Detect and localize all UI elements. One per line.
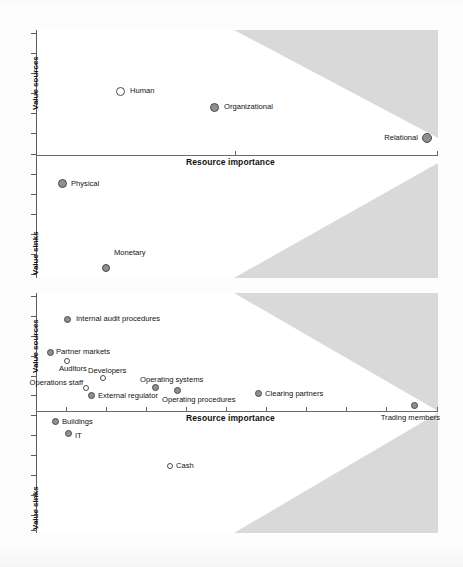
x-axis-label-top: Resource importance (186, 157, 275, 167)
data-label-physical: Physical (71, 180, 99, 188)
y-tick (31, 33, 36, 34)
y-tick (31, 395, 36, 396)
data-point-external-regulator[interactable] (88, 392, 95, 399)
data-label-monetary: Monetary (114, 249, 146, 257)
x-tick (437, 407, 438, 411)
x-tick (306, 407, 307, 411)
data-point-developers[interactable] (100, 375, 106, 381)
figure-page: Value sources Value sinks Resource impor… (0, 0, 463, 567)
x-tick (66, 407, 67, 411)
y-tick (31, 316, 36, 317)
data-point-organizational[interactable] (210, 103, 219, 112)
data-point-buildings[interactable] (52, 418, 59, 425)
x-tick (437, 151, 438, 155)
data-label-cash: Cash (176, 462, 194, 470)
chart-panel-top: Value sources Value sinks Resource impor… (0, 0, 463, 285)
upper-shaded-wedge-top (234, 30, 438, 138)
x-tick (226, 407, 227, 411)
y-tick (31, 113, 36, 114)
chart-panel-bottom: Value sources Value sinks Resource impor… (0, 285, 463, 567)
data-label-operating-systems: Operating systems (140, 376, 203, 384)
x-tick (106, 407, 107, 411)
data-point-relational[interactable] (422, 133, 432, 143)
data-label-auditors: Auditors (59, 365, 87, 373)
data-label-developers: Developers (88, 367, 126, 375)
x-tick (386, 407, 387, 411)
lower-shaded-wedge-bottom (234, 413, 438, 533)
y-tick (31, 214, 36, 215)
x-tick (146, 407, 147, 411)
data-label-buildings: Buildings (62, 418, 93, 426)
data-point-operating-procedures[interactable] (174, 387, 181, 394)
y-tick (31, 455, 36, 456)
y-axis-label-upper-top: Value sources (31, 56, 40, 110)
data-label-internal-audit-procedures: Internal audit procedures (76, 315, 160, 323)
y-tick (31, 376, 36, 377)
y-axis-label-upper-bottom: Value sources (31, 319, 40, 373)
data-point-human[interactable] (116, 87, 125, 96)
y-tick (31, 194, 36, 195)
data-label-operations-staff: Operations staff (30, 379, 83, 387)
data-label-organizational: Organizational (224, 103, 273, 111)
x-tick (266, 407, 267, 411)
plot-area-top (36, 30, 438, 278)
data-point-internal-audit-procedures[interactable] (64, 316, 71, 323)
y-tick (31, 53, 36, 54)
data-label-it: IT (75, 432, 82, 440)
data-label-operating-procedures: Operating procedures (162, 396, 235, 404)
data-label-clearing-partners: Clearing partners (265, 390, 323, 398)
x-axis-top (36, 155, 438, 156)
x-tick (235, 151, 236, 155)
data-label-human: Human (130, 87, 154, 95)
data-label-relational: Relational (384, 134, 418, 142)
data-point-cash[interactable] (167, 463, 173, 469)
y-axis-label-lower-bottom: Value sinks (31, 486, 40, 530)
x-tick (186, 407, 187, 411)
data-point-it[interactable] (65, 430, 72, 437)
data-point-partner-markets[interactable] (47, 349, 54, 356)
y-axis-label-lower-top: Value sinks (31, 231, 40, 275)
data-point-trading-members[interactable] (411, 402, 418, 409)
y-tick (31, 415, 36, 416)
data-point-clearing-partners[interactable] (255, 390, 262, 397)
y-tick (31, 475, 36, 476)
data-label-trading-members: Trading members (381, 414, 440, 422)
lower-shaded-wedge-top (234, 163, 438, 278)
data-point-monetary[interactable] (102, 264, 110, 272)
x-axis-bottom (36, 411, 438, 412)
y-tick (31, 174, 36, 175)
y-tick (31, 530, 36, 531)
data-point-physical[interactable] (58, 179, 67, 188)
x-axis-label-bottom: Resource importance (186, 413, 275, 423)
data-point-operations-staff[interactable] (83, 385, 89, 391)
data-point-operating-systems[interactable] (152, 384, 159, 391)
data-label-partner-markets: Partner markets (56, 348, 110, 356)
y-tick (31, 296, 36, 297)
y-tick (31, 133, 36, 134)
y-tick (31, 435, 36, 436)
data-label-external-regulator: External regulator (98, 392, 158, 400)
x-tick (346, 407, 347, 411)
